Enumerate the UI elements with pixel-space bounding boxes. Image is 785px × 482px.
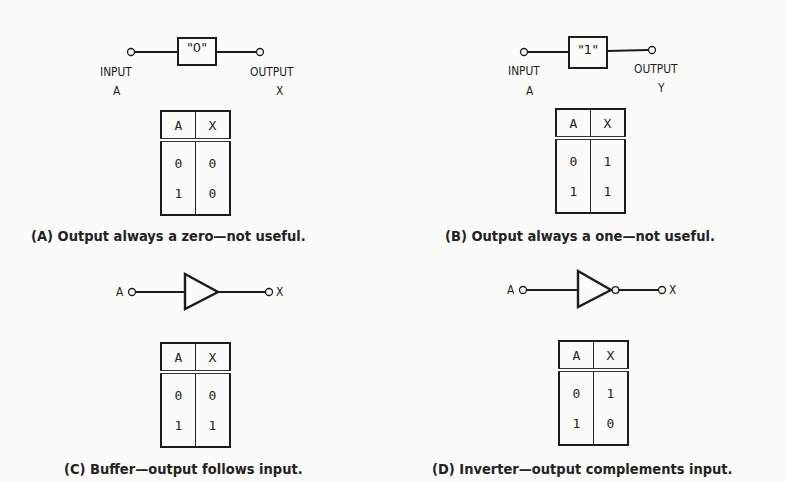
block-label: "1" (569, 42, 607, 57)
inverter-gate-icon (578, 271, 611, 307)
caption: (C) Buffer—output follows input. (64, 461, 303, 477)
output-terminal-icon (649, 47, 656, 54)
input-terminal-icon (128, 49, 135, 56)
output-label: OUTPUT (250, 64, 293, 79)
block-label: "0" (178, 40, 216, 55)
table-cell: 1 (161, 178, 196, 215)
input-label: INPUT (508, 63, 540, 78)
panel-c-circuit (129, 274, 273, 309)
table-cell: 1 (591, 176, 626, 213)
output-terminal-icon (257, 49, 264, 56)
table-row: 1 1 (556, 176, 625, 213)
caption: (B) Output always a one—not useful. (445, 228, 715, 244)
table-cell: 0 (594, 408, 629, 445)
buffer-gate-icon (185, 274, 218, 309)
column-header: A (161, 111, 196, 140)
input-terminal-icon (520, 287, 527, 294)
table-row: 0 0 (161, 140, 230, 178)
table-cell: 0 (161, 140, 196, 178)
input-variable: A (507, 282, 514, 297)
table-row: 1 0 (161, 178, 230, 215)
output-variable: Y (658, 80, 665, 95)
truth-table: A X 0 0 1 1 (160, 342, 231, 448)
table-cell: 1 (591, 138, 626, 176)
column-header: X (594, 341, 629, 370)
table-cell: 1 (196, 410, 231, 447)
column-header: A (161, 343, 196, 372)
table-row: 0 1 (556, 138, 625, 176)
table-cell: 1 (559, 408, 594, 445)
output-terminal-icon (659, 287, 666, 294)
column-header: X (196, 343, 231, 372)
input-variable: A (526, 83, 533, 98)
panel-d-circuit (520, 271, 666, 307)
caption: (D) Inverter—output complements input. (432, 461, 733, 477)
column-header: X (196, 111, 231, 140)
column-header: A (559, 341, 594, 370)
table-cell: 0 (196, 140, 231, 178)
output-variable: X (669, 282, 676, 297)
table-row: 1 0 (559, 408, 628, 445)
table-row: 1 1 (161, 410, 230, 447)
truth-table: A X 0 0 1 0 (160, 110, 231, 216)
input-terminal-icon (129, 289, 136, 296)
input-variable: A (116, 284, 123, 299)
output-terminal-icon (266, 289, 273, 296)
output-label: OUTPUT (634, 61, 677, 76)
table-cell: 0 (559, 370, 594, 408)
input-terminal-icon (521, 49, 528, 56)
truth-table: A X 0 1 1 1 (555, 108, 626, 214)
column-header: A (556, 109, 591, 138)
table-cell: 1 (594, 370, 629, 408)
table-cell: 0 (556, 138, 591, 176)
caption: (A) Output always a zero—not useful. (31, 228, 306, 244)
table-cell: 1 (556, 176, 591, 213)
output-variable: X (276, 83, 283, 98)
column-header: X (591, 109, 626, 138)
input-label: INPUT (100, 64, 132, 79)
truth-table: A X 0 1 1 0 (558, 340, 629, 446)
table-cell: 0 (161, 372, 196, 410)
table-row: 0 0 (161, 372, 230, 410)
table-cell: 1 (161, 410, 196, 447)
output-variable: X (276, 284, 283, 299)
table-cell: 0 (196, 178, 231, 215)
table-cell: 0 (196, 372, 231, 410)
input-variable: A (113, 83, 120, 98)
inversion-bubble-icon (612, 287, 619, 294)
table-row: 0 1 (559, 370, 628, 408)
